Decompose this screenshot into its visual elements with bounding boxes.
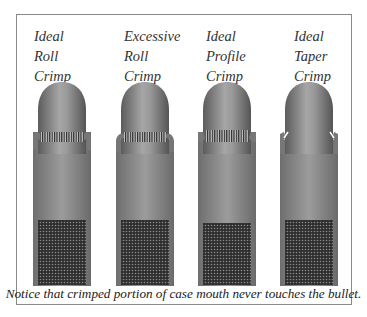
caption: Notice that crimped portion of case mout… [0, 286, 367, 302]
label-line: Ideal [34, 26, 71, 46]
label-line: Roll [124, 46, 180, 66]
label-excessive-roll-crimp: Excessive Roll Crimp [124, 26, 180, 86]
label-ideal-roll-crimp: Ideal Roll Crimp [34, 26, 71, 86]
label-line: Excessive [124, 26, 180, 46]
label-ideal-profile-crimp: Ideal Profile Crimp [206, 26, 246, 86]
label-line: Taper [294, 46, 331, 66]
label-ideal-taper-crimp: Ideal Taper Crimp [294, 26, 331, 86]
cartridge-excessive-roll-crimp [113, 80, 177, 287]
label-line: Roll [34, 46, 71, 66]
cartridge-ideal-roll-crimp [30, 80, 94, 287]
label-line: Ideal [294, 26, 331, 46]
cartridge-ideal-profile-crimp [195, 80, 259, 287]
cartridge-ideal-taper-crimp [277, 80, 341, 287]
label-line: Ideal [206, 26, 246, 46]
label-line: Profile [206, 46, 246, 66]
